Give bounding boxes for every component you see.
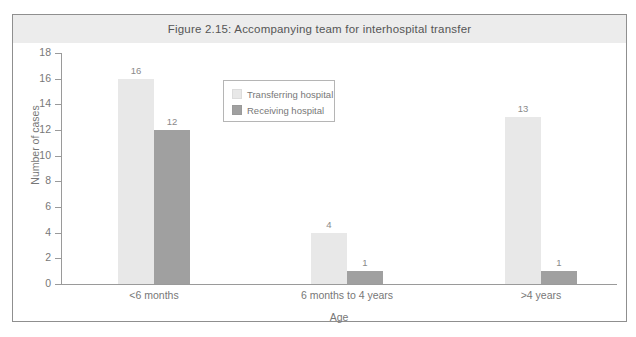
bar: 16 [118, 79, 154, 284]
y-tick-mark [55, 130, 61, 131]
y-tick-mark [55, 53, 61, 54]
y-tick-label: 0 [21, 277, 51, 289]
legend-item-transferring-hospital: Transferring hospital [232, 86, 334, 102]
legend-item-receiving-hospital: Receiving hospital [232, 102, 334, 118]
bar-value-label: 12 [154, 116, 190, 127]
plot-area: 024681012141618 Number of cases 16124113… [13, 43, 626, 322]
figure-title-band: Figure 2.15: Accompanying team for inter… [13, 15, 626, 43]
x-category-label: <6 months [74, 289, 234, 301]
y-tick-label: 18 [21, 46, 51, 58]
y-axis-title: Number of cases [29, 75, 41, 215]
legend-swatch-transferring-hospital [232, 89, 242, 99]
y-tick-mark [55, 258, 61, 259]
x-axis-line [61, 284, 617, 285]
bar: 13 [505, 117, 541, 284]
y-axis-line [61, 53, 62, 285]
y-tick-mark [55, 79, 61, 80]
x-category-label: >4 years [461, 289, 621, 301]
bar: 4 [311, 233, 347, 284]
bar-value-label: 4 [311, 219, 347, 230]
bar-value-label: 16 [118, 65, 154, 76]
x-category-label: 6 months to 4 years [267, 289, 427, 301]
chart-legend: Transferring hospital Receiving hospital [223, 80, 335, 122]
legend-label-receiving-hospital: Receiving hospital [247, 105, 324, 116]
y-tick-mark [55, 156, 61, 157]
bar: 1 [541, 271, 577, 284]
legend-swatch-receiving-hospital [232, 105, 242, 115]
legend-label-transferring-hospital: Transferring hospital [247, 89, 333, 100]
bar-value-label: 13 [505, 103, 541, 114]
page-title: Figure 2.15: Accompanying team for inter… [168, 23, 472, 35]
y-tick-label: 4 [21, 226, 51, 238]
y-tick-mark [55, 104, 61, 105]
x-axis-title: Age [61, 311, 617, 323]
y-tick-mark [55, 233, 61, 234]
y-tick-mark [55, 207, 61, 208]
bar: 1 [347, 271, 383, 284]
y-tick-label: 2 [21, 251, 51, 263]
bar-value-label: 1 [347, 257, 383, 268]
y-tick-mark [55, 181, 61, 182]
y-tick-mark [55, 284, 61, 285]
bar: 12 [154, 130, 190, 284]
bar-value-label: 1 [541, 257, 577, 268]
figure-frame: Figure 2.15: Accompanying team for inter… [12, 14, 627, 322]
